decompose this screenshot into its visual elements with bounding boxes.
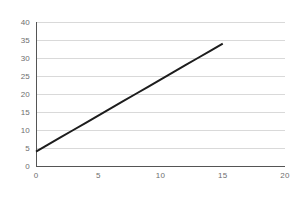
y-tick-label: 40 bbox=[21, 18, 31, 27]
x-tick-label: 10 bbox=[156, 171, 166, 180]
chart-container: 0510152025303540 05101520 bbox=[0, 0, 296, 197]
chart-background bbox=[0, 0, 296, 197]
y-tick-label: 25 bbox=[21, 72, 31, 81]
line-chart: 0510152025303540 05101520 bbox=[0, 0, 296, 197]
x-tick-label: 15 bbox=[218, 171, 228, 180]
y-tick-label: 15 bbox=[21, 108, 31, 117]
x-tick-label: 5 bbox=[96, 171, 101, 180]
x-tick-label: 0 bbox=[34, 171, 39, 180]
y-tick-label: 20 bbox=[21, 90, 31, 99]
y-tick-label: 35 bbox=[21, 36, 31, 45]
y-tick-label: 0 bbox=[25, 162, 30, 171]
y-tick-label: 5 bbox=[25, 144, 30, 153]
y-tick-label: 30 bbox=[21, 54, 31, 63]
y-tick-label: 10 bbox=[21, 126, 31, 135]
x-tick-label: 20 bbox=[280, 171, 290, 180]
